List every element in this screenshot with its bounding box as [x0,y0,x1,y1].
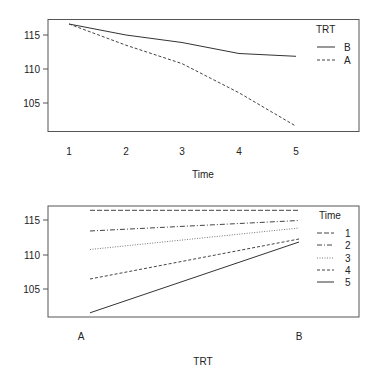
legend-label: 3 [345,253,351,264]
series-B-line [69,24,296,56]
bottom-panel: 115 110 105 A B TRT Time 1 2 3 4 5 [23,206,359,367]
bottom-plot-frame [48,206,359,317]
y-tick-label: 115 [24,30,40,41]
x-tick-label: 2 [123,146,129,157]
series-A-line [69,24,296,126]
x-tick-label: 4 [236,146,242,157]
bottom-legend: Time 1 2 3 4 5 [317,210,351,288]
x-tick-label: 3 [179,146,185,157]
series-time-3-line [90,228,299,250]
legend-label: 1 [345,228,351,239]
bottom-y-axis: 115 110 105 [23,215,48,295]
x-tick-label: 1 [66,146,72,157]
series-time-4-line [90,239,299,279]
x-axis-title: TRT [193,356,212,367]
top-y-axis: 115 110 105 [23,30,48,109]
x-tick-label: A [78,331,85,342]
top-panel: 115 110 105 1 2 3 4 5 Time TRT B A [23,20,359,181]
series-time-2-line [90,221,299,232]
x-tick-label: 5 [293,146,299,157]
legend-title: TRT [316,24,335,35]
series-time-5-line [90,242,299,313]
legend-label: 4 [345,265,351,276]
y-tick-label: 110 [24,250,40,261]
legend-label: B [344,42,351,53]
legend-label: 2 [345,240,351,251]
top-legend: TRT B A [316,24,351,66]
y-tick-label: 105 [23,284,40,295]
chart-canvas: 115 110 105 1 2 3 4 5 Time TRT B A [0,0,376,388]
y-tick-label: 105 [23,98,40,109]
bottom-x-axis: A B TRT [78,331,303,367]
top-x-axis: 1 2 3 4 5 Time [66,146,299,180]
top-plot-frame [48,20,359,132]
legend-title: Time [319,210,341,221]
y-tick-label: 115 [24,215,40,226]
legend-label: 5 [345,277,351,288]
y-tick-label: 110 [24,64,40,75]
x-tick-label: B [296,331,303,342]
legend-label: A [344,55,351,66]
x-axis-title: Time [192,169,214,180]
